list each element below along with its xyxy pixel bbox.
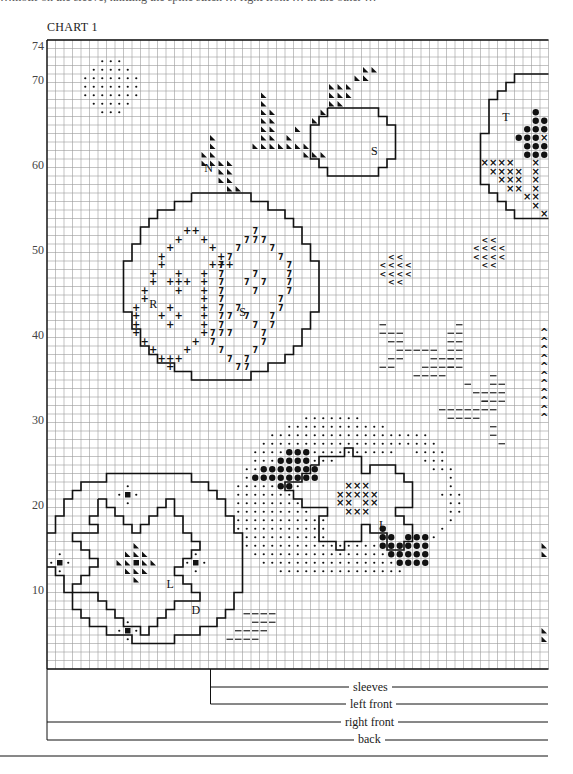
svg-text:7: 7 — [244, 363, 250, 372]
svg-text:7: 7 — [218, 346, 224, 355]
svg-text:+: + — [192, 336, 200, 347]
svg-text:+: + — [183, 276, 191, 287]
svg-text:+: + — [166, 242, 174, 253]
svg-text:<: < — [473, 253, 480, 262]
svg-text:7: 7 — [269, 321, 275, 330]
svg-text:+: + — [183, 225, 191, 236]
svg-text:<: < — [388, 278, 395, 287]
svg-text:+: + — [175, 353, 183, 364]
svg-text:7: 7 — [278, 253, 284, 262]
svg-text:+: + — [183, 344, 191, 355]
svg-text:+: + — [166, 319, 174, 330]
motif-symbols: ++++++++++++++++++++++++++++++++++++++++… — [50, 60, 548, 642]
svg-text:R: R — [149, 297, 157, 311]
svg-text:<: < — [396, 278, 403, 287]
svg-text:+: + — [149, 276, 157, 287]
svg-text:×: × — [532, 200, 540, 211]
motif-outlines — [47, 74, 549, 644]
svg-text:+: + — [175, 234, 183, 245]
knitting-chart-grid: ++++++++++++++++++++++++++++++++++++++++… — [0, 0, 573, 774]
svg-text:7: 7 — [252, 321, 258, 330]
svg-text:7: 7 — [286, 287, 292, 296]
svg-text:N: N — [204, 161, 213, 175]
svg-text:^: ^ — [540, 412, 548, 423]
svg-text:×: × — [353, 489, 361, 500]
svg-text:<: < — [379, 270, 386, 279]
svg-text:7: 7 — [227, 253, 233, 262]
svg-text:7: 7 — [227, 329, 233, 338]
svg-text:<: < — [481, 261, 488, 270]
svg-text:+: + — [158, 310, 166, 321]
svg-text:+: + — [158, 353, 166, 364]
svg-text:×: × — [362, 506, 370, 517]
svg-text:7: 7 — [278, 304, 284, 313]
svg-text:7: 7 — [218, 329, 224, 338]
svg-text:D: D — [191, 603, 200, 617]
svg-text:×: × — [345, 506, 353, 517]
svg-text:T: T — [502, 110, 510, 124]
svg-text:L: L — [379, 518, 386, 532]
svg-text:S: S — [239, 305, 246, 319]
svg-text:7: 7 — [261, 236, 267, 245]
key-label-back: back — [354, 732, 385, 746]
svg-text:×: × — [506, 183, 514, 194]
svg-text:7: 7 — [227, 355, 233, 364]
key-label-right-front: right front — [341, 715, 398, 729]
svg-text:×: × — [515, 183, 523, 194]
grid-lines — [47, 40, 549, 669]
svg-text:<: < — [490, 261, 497, 270]
svg-text:+: + — [149, 344, 157, 355]
key-label-sleeves: sleeves — [349, 680, 392, 694]
svg-text:×: × — [540, 132, 548, 143]
svg-text:+: + — [192, 225, 200, 236]
svg-text:7: 7 — [252, 270, 258, 279]
svg-text:7: 7 — [252, 236, 258, 245]
svg-text:+: + — [158, 259, 166, 270]
svg-text:<: < — [405, 270, 412, 279]
svg-text:+: + — [200, 327, 208, 338]
svg-text:+: + — [175, 310, 183, 321]
svg-text:×: × — [481, 157, 489, 168]
svg-text:+: + — [166, 302, 174, 313]
svg-text:7: 7 — [227, 312, 233, 321]
svg-text:×: × — [353, 506, 361, 517]
svg-text:7: 7 — [252, 346, 258, 355]
svg-text:+: + — [141, 293, 149, 304]
svg-text:+: + — [166, 276, 174, 287]
svg-text:S: S — [371, 144, 378, 158]
svg-text:+: + — [200, 234, 208, 245]
svg-text:7: 7 — [244, 278, 250, 287]
svg-text:7: 7 — [235, 244, 241, 253]
size-key-lines — [0, 669, 548, 756]
svg-text:7: 7 — [261, 278, 267, 287]
svg-text:+: + — [175, 285, 183, 296]
svg-text:×: × — [489, 166, 497, 177]
svg-text:7: 7 — [235, 363, 241, 372]
svg-text:<: < — [498, 253, 505, 262]
svg-text:7: 7 — [269, 244, 275, 253]
svg-text:7: 7 — [210, 338, 216, 347]
svg-text:×: × — [523, 191, 531, 202]
svg-text:×: × — [370, 497, 378, 508]
svg-text:×: × — [498, 174, 506, 185]
svg-text:7: 7 — [261, 338, 267, 347]
svg-text:+: + — [209, 259, 217, 270]
svg-text:×: × — [540, 208, 548, 219]
svg-text:7: 7 — [244, 236, 250, 245]
svg-text:×: × — [336, 497, 344, 508]
svg-text:+: + — [209, 242, 217, 253]
svg-text:7: 7 — [252, 287, 258, 296]
svg-text:L: L — [167, 577, 174, 591]
svg-text:+: + — [141, 336, 149, 347]
key-label-left-front: left front — [346, 697, 396, 711]
